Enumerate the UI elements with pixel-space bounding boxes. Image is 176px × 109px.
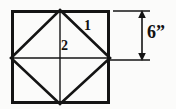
region-label-1: 1 bbox=[84, 19, 91, 33]
figure-canvas bbox=[0, 0, 176, 109]
dimension-label: 6” bbox=[147, 23, 165, 41]
geometry-figure: 1 2 6” bbox=[0, 0, 176, 109]
region-label-2: 2 bbox=[61, 39, 68, 53]
